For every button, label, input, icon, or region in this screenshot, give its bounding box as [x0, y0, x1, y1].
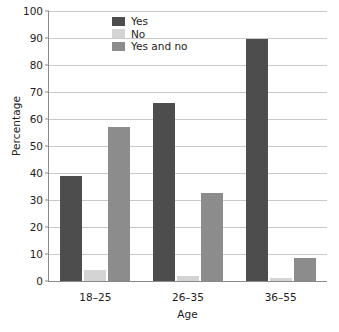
legend-item: No	[112, 28, 187, 41]
y-tick-mark	[45, 254, 49, 255]
y-tick-label: 20	[30, 221, 43, 233]
bar-group	[246, 11, 316, 281]
legend-swatch-icon	[112, 29, 125, 38]
legend-swatch-icon	[112, 17, 125, 26]
x-tick-label: 36–55	[265, 291, 297, 303]
y-axis-title: Percentage	[10, 66, 22, 186]
bar	[201, 193, 223, 281]
plot-area: 010203040506070809010018–2526–3536–55	[48, 11, 327, 282]
bar	[153, 103, 175, 281]
legend-item: Yes	[112, 15, 187, 28]
y-tick-mark	[45, 92, 49, 93]
legend-label: No	[131, 28, 145, 41]
bar	[177, 276, 199, 281]
legend-label: Yes	[131, 15, 148, 28]
y-tick-mark	[45, 119, 49, 120]
x-tick-label: 26–35	[172, 291, 204, 303]
y-tick-label: 60	[30, 113, 43, 125]
y-tick-mark	[45, 65, 49, 66]
y-tick-label: 80	[30, 59, 43, 71]
bar	[270, 278, 292, 281]
bar	[84, 270, 106, 281]
y-tick-label: 50	[30, 140, 43, 152]
bar-chart: Percentage 010203040506070809010018–2526…	[0, 0, 339, 332]
y-tick-mark	[45, 146, 49, 147]
y-tick-label: 90	[30, 32, 43, 44]
y-tick-mark	[45, 281, 49, 282]
y-tick-label: 10	[30, 248, 43, 260]
y-tick-mark	[45, 38, 49, 39]
y-tick-label: 70	[30, 86, 43, 98]
bar	[60, 176, 82, 281]
legend-label: Yes and no	[131, 40, 187, 53]
x-tick-label: 18–25	[79, 291, 111, 303]
y-tick-label: 30	[30, 194, 43, 206]
bar	[108, 127, 130, 281]
y-tick-label: 40	[30, 167, 43, 179]
chart-legend: YesNoYes and no	[112, 15, 187, 53]
y-tick-mark	[45, 11, 49, 12]
y-tick-mark	[45, 173, 49, 174]
y-tick-mark	[45, 227, 49, 228]
x-axis-title: Age	[48, 308, 327, 320]
legend-swatch-icon	[112, 42, 125, 51]
y-tick-label: 0	[36, 275, 43, 287]
legend-item: Yes and no	[112, 40, 187, 53]
bar	[246, 39, 268, 281]
y-tick-label: 100	[23, 5, 43, 17]
bar	[294, 258, 316, 281]
y-tick-mark	[45, 200, 49, 201]
